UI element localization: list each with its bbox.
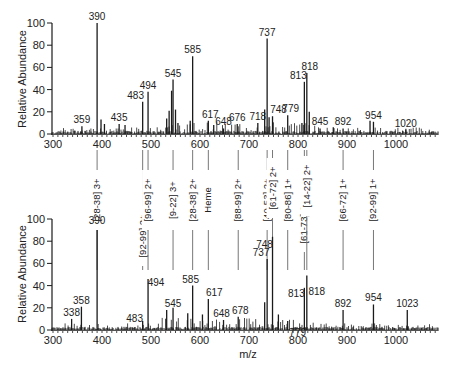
x-tick-label: 800 [289,138,307,150]
x-tick-label: 1000 [384,334,408,346]
bottom-spectrum-panel: 0204060801003004005006007008009001000338… [27,213,438,346]
peak-label: 390 [89,215,106,226]
annotation-label: [92-99] 1+ [367,178,378,221]
peak-label: 779 [282,103,299,114]
peak-label: 892 [335,116,352,127]
background-peaks [58,122,433,134]
y-tick-label: 20 [33,302,45,314]
annotation-connectors: [28-38] 3+[92-99] 2+[96-99] 2+[9-22] 3+[… [91,150,379,270]
annotation-label: Heme [202,187,213,212]
peak-label: 818 [308,286,325,297]
annotation-label: [88-99] 2+ [232,178,243,221]
x-tick-label: 700 [240,138,258,150]
x-tick-label: 300 [44,334,62,346]
peak-label: 954 [365,292,382,303]
peak-label: 390 [89,11,106,22]
peak-label: 545 [165,298,182,309]
peak-label: 483 [126,313,143,324]
peak-label: 676 [229,112,246,123]
x-minor-ticks [53,331,435,333]
top-y-axis-title: Relative Abundance [16,30,28,128]
peak-label: 648 [213,308,230,319]
annotation-label: [14-22] 2+ [301,164,312,207]
peak-label: 585 [182,274,199,285]
mass-spectra-figure: 0204060801003004005006007008009001000359… [0,0,456,369]
peak-label: 845 [312,116,329,127]
peak-label: 435 [111,112,128,123]
y-tick-label: 40 [33,280,45,292]
y-tick-label: 80 [33,235,45,247]
bottom-y-axis-title: Relative Abundance [16,225,28,323]
y-tick-label: 80 [33,39,45,51]
x-tick-label: 300 [44,138,62,150]
x-tick-label: 500 [142,138,160,150]
y-tick-label: 60 [33,61,45,73]
peak-label: 748 [256,239,273,250]
x-tick-label: 400 [93,138,111,150]
annotation-label: [9-22] 3+ [167,181,178,219]
annotation-label: [28-38] 2+ [187,178,198,221]
peak-label: 954 [365,110,382,121]
y-tick-label: 100 [27,213,45,225]
peak-label: 1020 [395,118,418,129]
y-tick-label: 40 [33,84,45,96]
background-peaks [58,318,433,330]
x-axis-title: m/z [239,348,257,360]
spectra-svg: 0204060801003004005006007008009001000359… [0,0,456,369]
x-tick-label: 400 [93,334,111,346]
peak-label: 813 [288,288,305,299]
x-tick-label: 600 [191,138,209,150]
x-tick-label: 500 [142,334,160,346]
x-tick-label: 900 [338,334,356,346]
peak-label: 545 [165,68,182,79]
x-tick-label: 700 [240,334,258,346]
peak-label: 494 [140,80,157,91]
peak-label: 358 [73,295,90,306]
annotation-label: [80-86] 1+ [282,178,293,221]
top-spectrum-panel: 0204060801003004005006007008009001000359… [27,11,438,150]
x-minor-ticks [53,135,435,137]
peak-label: 585 [184,44,201,55]
annotation-label: [61-72] 2+ [267,166,278,209]
peak-label: 338 [63,307,80,318]
peak-label: 1023 [396,298,419,309]
peak-label: 892 [335,298,352,309]
peak-label: 617 [206,287,223,298]
peak-label: 494 [148,277,165,288]
peak-label: 359 [74,114,91,125]
y-tick-label: 60 [33,257,45,269]
peak-label: 678 [232,305,249,316]
x-tick-label: 1000 [384,138,408,150]
peak-label: 737 [259,27,276,38]
annotation-label: [96-99] 2+ [142,178,153,221]
x-tick-label: 600 [191,334,209,346]
peak-label: 818 [301,61,318,72]
y-tick-label: 100 [27,17,45,29]
y-tick-label: 20 [33,106,45,118]
peak-label: 483 [127,90,144,101]
annotation-label: [66-72] 1+ [337,178,348,221]
x-tick-label: 900 [338,138,356,150]
